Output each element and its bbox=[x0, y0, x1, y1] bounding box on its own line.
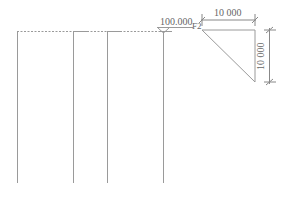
elevation-marker-icon bbox=[157, 28, 193, 34]
grid-lines bbox=[18, 31, 164, 183]
dimension-horizontal-text: 10 000 bbox=[214, 7, 242, 18]
elevation-label: 100.000 bbox=[160, 16, 193, 27]
drawing-canvas: 100.000 F2 10 000 10 000 bbox=[0, 0, 291, 198]
dimension-vertical-text: 10 000 bbox=[255, 43, 266, 71]
triangle-shape[interactable] bbox=[202, 30, 255, 82]
